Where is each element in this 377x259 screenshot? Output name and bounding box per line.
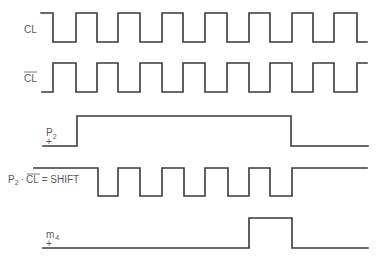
shift-label-sub: 2 — [15, 179, 19, 186]
p2-waveform — [43, 116, 368, 146]
cl-label: CL — [24, 24, 37, 35]
cl-bar-waveform — [42, 63, 367, 92]
p2-label-subscript: 2 — [53, 133, 57, 140]
m4-label-subscript: 4 — [55, 234, 59, 241]
shift-label-cl: CL — [26, 174, 39, 185]
shift-label-eq: = SHIFT — [42, 174, 80, 185]
m4-waveform — [43, 218, 368, 248]
cl-waveform — [41, 13, 367, 42]
timing-diagram: CL CL P2 + P2·CL= SHIFT m4 + — [0, 0, 377, 259]
shift-label-dot: · — [21, 174, 24, 185]
shift-waveform — [34, 168, 367, 196]
cl-bar-label: CL — [24, 73, 37, 84]
shift-label: P2·CL= SHIFT — [8, 174, 79, 186]
